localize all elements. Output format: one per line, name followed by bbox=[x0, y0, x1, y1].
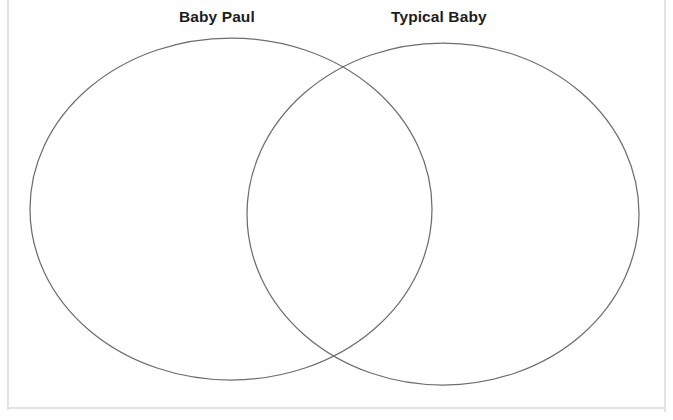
venn-circle-left bbox=[30, 38, 432, 380]
venn-label-right: Typical Baby bbox=[391, 9, 487, 25]
venn-diagram-worksheet: Baby Paul Typical Baby bbox=[0, 0, 673, 420]
venn-diagram-graphic bbox=[0, 0, 673, 420]
venn-circle-right bbox=[247, 43, 639, 385]
venn-label-left: Baby Paul bbox=[179, 9, 255, 25]
